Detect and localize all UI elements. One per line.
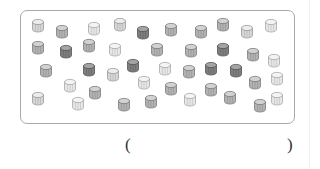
cylinder-icon	[73, 97, 84, 110]
cylinder-icon	[206, 62, 217, 75]
cylinder-icon	[84, 63, 95, 76]
cylinder-icon	[272, 72, 283, 85]
cylinder-icon	[84, 39, 95, 52]
cylinder-icon	[119, 98, 130, 111]
cylinder-icon	[255, 99, 266, 112]
cylinder-icon	[41, 64, 52, 77]
cylinder-icon	[33, 41, 44, 54]
cylinder-icon	[89, 22, 100, 35]
answer-open-paren: (	[125, 136, 131, 153]
cylinder-icon	[206, 83, 217, 96]
cylinder-icon	[61, 45, 72, 58]
cylinder-icon	[128, 59, 139, 72]
answer-close-paren: )	[287, 136, 293, 153]
cylinder-icon	[185, 93, 196, 106]
cylinder-icon	[57, 25, 68, 38]
cylinder-icon	[218, 18, 229, 31]
cylinder-icon	[146, 95, 157, 108]
cylinder-icon	[184, 65, 195, 78]
cylinder-icon	[166, 82, 177, 95]
cylinder-icon	[225, 91, 236, 104]
cylinder-icon	[138, 26, 149, 39]
cylinder-icon	[196, 25, 207, 38]
cylinder-icon	[115, 18, 126, 31]
cylinder-icon	[110, 43, 121, 56]
cylinder-icon	[160, 62, 171, 75]
cylinder-icon	[186, 44, 197, 57]
cylinder-icon	[266, 19, 277, 32]
cylinder-icon	[65, 79, 76, 92]
cylinder-icon	[231, 64, 242, 77]
cylinder-icon	[248, 48, 259, 61]
cylinder-icon	[108, 68, 119, 81]
cylinder-icon	[242, 25, 253, 38]
cylinder-icon	[33, 19, 44, 32]
cylinder-icon	[90, 86, 101, 99]
cylinder-icon	[269, 54, 280, 67]
cylinder-icon	[272, 92, 283, 105]
cylinder-icon	[152, 43, 163, 56]
cylinder-icon	[250, 76, 261, 89]
cylinder-icon	[218, 43, 229, 56]
cylinder-icon	[139, 76, 150, 89]
answer-blank[interactable]	[140, 136, 280, 154]
cylinder-icon	[33, 92, 44, 105]
cylinder-icon	[166, 23, 177, 36]
